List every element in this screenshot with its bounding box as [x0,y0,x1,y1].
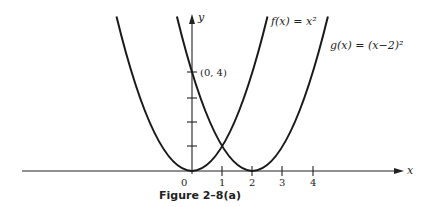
figure-caption: Figure 2–8(a) [0,189,400,202]
x-tick-4: 4 [310,177,316,188]
curve-g [177,17,328,171]
x-tick-3: 3 [279,177,285,188]
y-axis-label: y [197,11,205,24]
point-label: (0, 4) [200,67,227,78]
x-axis-label: x [407,164,414,177]
x-tick-1: 1 [219,177,225,188]
f-label: f(x) = x² [270,15,317,28]
g-label: g(x) = (x−2)² [330,39,403,52]
x-tick-0: 0 [181,177,187,188]
x-axis-arrow-icon [394,168,404,174]
chart-canvas: x y 0 1 2 3 4 (0, 4) f(x) = x² g(x) = (x… [0,0,428,207]
y-axis-arrow-icon [189,14,195,24]
x-tick-2: 2 [249,177,255,188]
